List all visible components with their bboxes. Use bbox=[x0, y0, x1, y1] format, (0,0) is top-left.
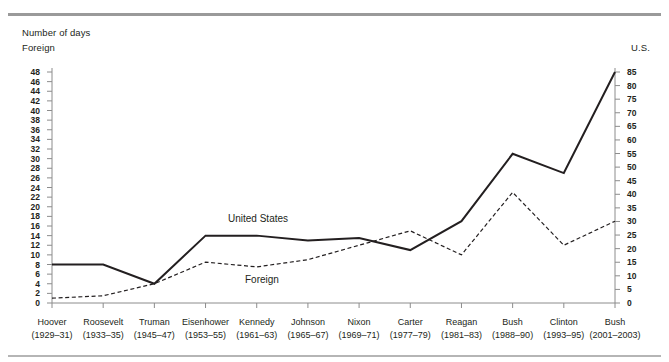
left-tick-label: 26 bbox=[20, 174, 40, 183]
right-tick-label: 70 bbox=[627, 109, 647, 118]
left-tick-label: 16 bbox=[20, 222, 40, 231]
right-tick-label: 20 bbox=[627, 245, 647, 254]
x-category-name: Eisenhower bbox=[178, 316, 234, 329]
x-category-name: Kennedy bbox=[229, 316, 285, 329]
x-category-kennedy: Kennedy(1961–63) bbox=[229, 316, 285, 342]
left-tick-label: 32 bbox=[20, 145, 40, 154]
x-category-clinton: Clinton(1993–95) bbox=[536, 316, 592, 342]
left-tick-label: 10 bbox=[20, 251, 40, 260]
x-category-years: (1981–83) bbox=[433, 329, 489, 342]
right-tick-label: 10 bbox=[627, 272, 647, 281]
right-tick-label: 5 bbox=[627, 285, 647, 294]
x-category-hoover: Hoover(1929–31) bbox=[24, 316, 80, 342]
left-tick-label: 12 bbox=[20, 241, 40, 250]
x-category-truman: Truman(1945–47) bbox=[126, 316, 182, 342]
right-tick-label: 0 bbox=[627, 299, 647, 308]
x-category-years: (1929–31) bbox=[24, 329, 80, 342]
x-category-name: Reagan bbox=[433, 316, 489, 329]
x-category-years: (1993–95) bbox=[536, 329, 592, 342]
left-tick-label: 14 bbox=[20, 232, 40, 241]
series-line-united-states bbox=[52, 72, 615, 284]
right-tick-label: 25 bbox=[627, 231, 647, 240]
series-label-united-states: United States bbox=[228, 213, 288, 224]
x-category-name: Hoover bbox=[24, 316, 80, 329]
x-category-years: (1961–63) bbox=[229, 329, 285, 342]
x-category-bush: Bush(1988–90) bbox=[485, 316, 541, 342]
x-category-name: Bush bbox=[587, 316, 643, 329]
left-tick-label: 42 bbox=[20, 97, 40, 106]
series-label-foreign: Foreign bbox=[245, 274, 279, 285]
x-category-years: (1945–47) bbox=[126, 329, 182, 342]
left-tick-label: 4 bbox=[20, 280, 40, 289]
x-category-name: Clinton bbox=[536, 316, 592, 329]
right-tick-label: 35 bbox=[627, 204, 647, 213]
left-tick-label: 38 bbox=[20, 116, 40, 125]
right-tick-label: 80 bbox=[627, 82, 647, 91]
x-category-name: Bush bbox=[485, 316, 541, 329]
left-tick-label: 48 bbox=[20, 68, 40, 77]
x-category-bush: Bush(2001–2003) bbox=[587, 316, 643, 342]
x-category-years: (1933–35) bbox=[75, 329, 131, 342]
x-category-years: (2001–2003) bbox=[587, 329, 643, 342]
x-category-roosevelt: Roosevelt(1933–35) bbox=[75, 316, 131, 342]
right-tick-label: 30 bbox=[627, 217, 647, 226]
left-tick-label: 2 bbox=[20, 289, 40, 298]
x-category-carter: Carter(1977–79) bbox=[382, 316, 438, 342]
x-category-name: Carter bbox=[382, 316, 438, 329]
x-category-johnson: Johnson(1965–67) bbox=[280, 316, 336, 342]
x-category-name: Nixon bbox=[331, 316, 387, 329]
right-tick-label: 15 bbox=[627, 258, 647, 267]
x-category-reagan: Reagan(1981–83) bbox=[433, 316, 489, 342]
series-line-foreign bbox=[52, 192, 615, 298]
left-tick-label: 36 bbox=[20, 126, 40, 135]
right-tick-label: 55 bbox=[627, 150, 647, 159]
x-category-years: (1988–90) bbox=[485, 329, 541, 342]
right-tick-label: 75 bbox=[627, 95, 647, 104]
series-group bbox=[52, 72, 615, 298]
x-category-name: Roosevelt bbox=[75, 316, 131, 329]
left-tick-label: 28 bbox=[20, 164, 40, 173]
x-category-name: Johnson bbox=[280, 316, 336, 329]
right-tick-label: 40 bbox=[627, 190, 647, 199]
left-tick-label: 30 bbox=[20, 155, 40, 164]
left-tick-label: 6 bbox=[20, 270, 40, 279]
x-category-years: (1953–55) bbox=[178, 329, 234, 342]
right-tick-label: 65 bbox=[627, 122, 647, 131]
left-tick-label: 24 bbox=[20, 184, 40, 193]
axes-group bbox=[47, 68, 620, 308]
left-tick-label: 0 bbox=[20, 299, 40, 308]
left-tick-label: 44 bbox=[20, 87, 40, 96]
chart-plot-area bbox=[0, 0, 669, 362]
left-tick-label: 18 bbox=[20, 212, 40, 221]
chart-svg bbox=[0, 0, 669, 362]
x-category-years: (1977–79) bbox=[382, 329, 438, 342]
x-category-years: (1965–67) bbox=[280, 329, 336, 342]
left-tick-label: 34 bbox=[20, 135, 40, 144]
x-category-eisenhower: Eisenhower(1953–55) bbox=[178, 316, 234, 342]
left-tick-label: 8 bbox=[20, 261, 40, 270]
right-tick-label: 85 bbox=[627, 68, 647, 77]
right-tick-label: 45 bbox=[627, 177, 647, 186]
left-tick-label: 20 bbox=[20, 203, 40, 212]
right-tick-label: 60 bbox=[627, 136, 647, 145]
left-tick-label: 46 bbox=[20, 78, 40, 87]
x-category-name: Truman bbox=[126, 316, 182, 329]
left-tick-label: 40 bbox=[20, 107, 40, 116]
right-tick-label: 50 bbox=[627, 163, 647, 172]
x-category-nixon: Nixon(1969–71) bbox=[331, 316, 387, 342]
left-tick-label: 22 bbox=[20, 193, 40, 202]
x-category-years: (1969–71) bbox=[331, 329, 387, 342]
